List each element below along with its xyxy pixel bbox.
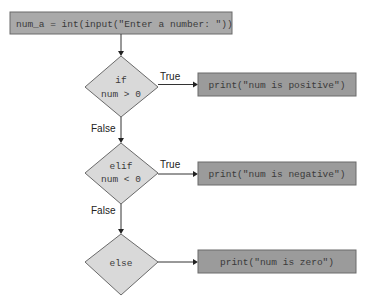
action-negative-label: print("num is negative") (209, 169, 346, 180)
true-label-2: True (160, 159, 181, 170)
decision-if-line1: if (115, 75, 127, 86)
action-box-positive: print("num is positive") (198, 73, 356, 96)
decision-elif-line2: num < 0 (101, 174, 141, 185)
arrowhead (193, 82, 198, 88)
arrowhead (193, 171, 198, 177)
arrowhead (118, 229, 124, 234)
arrowhead (118, 51, 124, 56)
action-box-zero: print("num is zero") (198, 250, 356, 273)
action-positive-label: print("num is positive") (209, 80, 346, 91)
arrowhead (193, 259, 198, 265)
decision-else-label: else (110, 258, 133, 269)
start-box: num_a = int(input("Enter a number: ")) (10, 12, 233, 34)
false-label-1: False (91, 123, 116, 134)
true-label-1: True (160, 71, 181, 82)
action-zero-label: print("num is zero") (220, 257, 334, 268)
decision-else: else (85, 234, 158, 295)
decision-elif-line1: elif (110, 161, 133, 172)
action-box-negative: print("num is negative") (198, 162, 356, 185)
start-box-label: num_a = int(input("Enter a number: ")) (16, 19, 233, 30)
arrowhead (118, 138, 124, 143)
decision-if-line2: num > 0 (101, 89, 141, 100)
false-label-2: False (91, 205, 116, 216)
decision-if: if num > 0 (85, 56, 158, 117)
decision-elif: elif num < 0 (85, 143, 158, 204)
flowchart: num_a = int(input("Enter a number: ")) i… (0, 0, 368, 302)
